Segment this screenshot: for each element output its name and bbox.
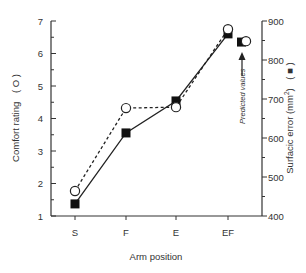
x-tick-label: E bbox=[173, 227, 179, 238]
comfort-rating-marker bbox=[121, 104, 130, 113]
left-tick-label: 6 bbox=[38, 48, 43, 59]
series-layer bbox=[70, 25, 250, 209]
predicted-comfort-marker bbox=[241, 37, 250, 46]
predicted-annotation: Predicted values bbox=[238, 52, 247, 124]
left-tick-label: 7 bbox=[38, 16, 43, 27]
right-y-ticks: 400500600700800900 bbox=[262, 16, 284, 222]
comfort-rating-marker bbox=[171, 103, 180, 112]
right-tick-label: 400 bbox=[268, 211, 284, 222]
right-tick-label: 700 bbox=[268, 94, 284, 105]
left-y-axis-label: Comfort rating ( O ) bbox=[10, 74, 21, 162]
comfort-rating-line bbox=[75, 29, 228, 191]
right-y-axis-label: Surfacic error (mm2) ( ■ ) bbox=[283, 62, 295, 173]
x-tick-label: F bbox=[123, 227, 129, 238]
surfacic-error-marker bbox=[122, 128, 131, 137]
right-tick-label: 800 bbox=[268, 55, 284, 66]
left-tick-label: 2 bbox=[38, 178, 43, 189]
x-tick-label: EF bbox=[222, 227, 234, 238]
comfort-rating-marker bbox=[70, 186, 79, 195]
left-tick-label: 1 bbox=[38, 211, 43, 222]
x-tick-label: S bbox=[72, 227, 78, 238]
left-tick-label: 3 bbox=[38, 146, 43, 157]
predicted-label: Predicted values bbox=[238, 68, 247, 124]
left-tick-label: 4 bbox=[38, 113, 43, 124]
right-tick-label: 900 bbox=[268, 16, 284, 27]
right-tick-label: 600 bbox=[268, 133, 284, 144]
surfacic-error-line bbox=[75, 34, 228, 204]
surfacic-error-marker bbox=[71, 199, 80, 208]
comfort-rating-marker bbox=[223, 25, 232, 34]
chart: 1234567 400500600700800900 SFEEF Predict… bbox=[0, 0, 306, 273]
left-tick-label: 5 bbox=[38, 81, 43, 92]
x-ticks: SFEEF bbox=[72, 216, 234, 238]
x-axis-label: Arm position bbox=[130, 251, 183, 262]
left-y-ticks: 1234567 bbox=[38, 16, 56, 222]
arrow-up-icon bbox=[239, 52, 246, 60]
right-tick-label: 500 bbox=[268, 172, 284, 183]
